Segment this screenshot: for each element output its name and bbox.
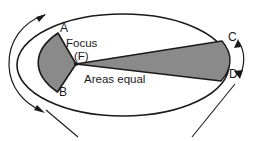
label-point-c: C <box>228 31 237 43</box>
label-areas-equal: Areas equal <box>84 74 145 86</box>
label-focus-symbol: (F) <box>74 51 89 63</box>
leader-line-left <box>46 110 78 137</box>
label-point-a: A <box>60 22 68 34</box>
label-point-d: D <box>229 68 238 80</box>
left-arc-arrowhead-bottom <box>34 105 45 113</box>
label-point-b: B <box>59 86 67 98</box>
orbit-diagram-canvas <box>0 0 255 141</box>
left-arc-arrowhead-top <box>36 14 46 22</box>
focus-point-marker <box>74 62 78 66</box>
kepler-second-law-figure: A B C D Focus (F) Areas equal <box>0 0 255 141</box>
label-focus: Focus <box>66 38 97 50</box>
